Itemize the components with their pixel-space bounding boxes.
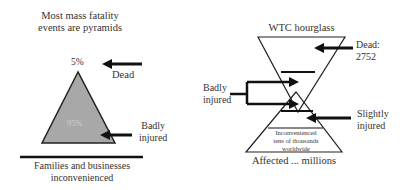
wtc-base-label: Affected ... millions: [246, 155, 342, 167]
wtc-inner-line3: worldwide: [266, 145, 326, 153]
badly-injured-label: Badly injured: [139, 120, 167, 143]
top-percent-label: 5%: [71, 57, 84, 68]
base-label: Families and businesses inconvenienced: [20, 160, 144, 183]
wtc-inner-line2: tens of thousands: [266, 137, 326, 145]
left-title-line1: Most mass fatality: [0, 10, 160, 22]
wtc-dead-line2: 2752: [356, 51, 380, 63]
dead-label: Dead: [112, 69, 134, 81]
wtc-badly-injured-line2: injured: [203, 94, 231, 106]
pyramid-shape: [42, 72, 115, 143]
wtc-slightly-injured-line1: Slightly: [357, 108, 389, 120]
badly-injured-line1: Badly: [139, 120, 167, 132]
base-line1: Families and businesses: [20, 160, 144, 172]
wtc-badly-injured-label: Badly injured: [203, 82, 231, 105]
wtc-dead-label: Dead: 2752: [356, 39, 380, 62]
wtc-title: WTC hourglass: [258, 22, 345, 34]
wtc-slightly-injured-line2: injured: [357, 120, 389, 132]
wtc-dead-arrow-icon: [314, 43, 353, 53]
wtc-slightly-injured-label: Slightly injured: [357, 108, 389, 131]
badly-injured-line2: injured: [139, 132, 167, 144]
wtc-dead-line1: Dead:: [356, 39, 380, 51]
body-percent-label: 95%: [67, 119, 83, 129]
left-title-line2: events are pyramids: [0, 22, 160, 34]
wtc-inconvenienced-label: Inconvenienced tens of thousands worldwi…: [266, 129, 326, 153]
wtc-badly-injured-line1: Badly: [203, 82, 231, 94]
left-title: Most mass fatality events are pyramids: [0, 10, 160, 34]
base-line2: inconvenienced: [20, 172, 144, 184]
dead-arrow-icon: [102, 59, 142, 69]
wtc-inner-line1: Inconvenienced: [266, 129, 326, 137]
wtc-badly-injured-bracket-icon: [230, 77, 299, 109]
